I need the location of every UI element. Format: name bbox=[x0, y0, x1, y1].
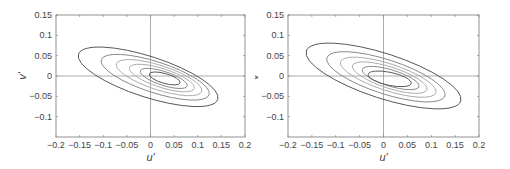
y-tick-label: 0.05 bbox=[266, 51, 284, 61]
x-tick-label: −0.2 bbox=[47, 140, 65, 150]
y-axis-label: v' bbox=[16, 71, 28, 80]
x-tick-label: 0 bbox=[148, 140, 153, 150]
x-tick-label: −0.15 bbox=[300, 140, 323, 150]
x-tick-label: 0.15 bbox=[446, 140, 464, 150]
contour-line bbox=[322, 41, 451, 112]
y-tick-label: −0.05 bbox=[29, 91, 52, 101]
x-tick-label: 0 bbox=[381, 140, 386, 150]
y-tick-label: 0 bbox=[279, 71, 284, 81]
x-tick-label: 0.1 bbox=[191, 140, 204, 150]
y-tick-label: 0.05 bbox=[34, 51, 52, 61]
x-tick-label: −0.15 bbox=[68, 140, 91, 150]
contour-line bbox=[113, 52, 206, 103]
y-tick-label: 0 bbox=[47, 71, 52, 81]
y-tick-label: 0.1 bbox=[39, 30, 52, 40]
contour-plot-right: −0.2−0.15−0.1−0.0500.050.10.150.20.150.1… bbox=[255, 0, 510, 169]
contour-plot-left: −0.2−0.15−0.1−0.0500.050.10.150.20.150.1… bbox=[0, 0, 255, 169]
x-tick-label: −0.1 bbox=[94, 140, 112, 150]
y-axis-label: v' bbox=[255, 71, 260, 80]
x-axis-label: u' bbox=[146, 151, 155, 163]
y-tick-label: 0.15 bbox=[266, 10, 284, 20]
y-tick-label: 0.1 bbox=[271, 30, 284, 40]
x-tick-label: −0.2 bbox=[279, 140, 297, 150]
y-tick-label: −0.1 bbox=[266, 112, 284, 122]
x-tick-label: 0.2 bbox=[239, 140, 252, 150]
x-tick-label: −0.05 bbox=[348, 140, 371, 150]
x-tick-label: −0.1 bbox=[327, 140, 345, 150]
contour-group bbox=[72, 35, 224, 119]
y-tick-label: −0.1 bbox=[34, 112, 52, 122]
contour-line bbox=[72, 35, 224, 119]
y-tick-label: −0.05 bbox=[261, 91, 284, 101]
x-tick-label: 0.2 bbox=[473, 140, 486, 150]
x-tick-label: 0.15 bbox=[213, 140, 231, 150]
contour-line bbox=[336, 49, 440, 106]
x-tick-label: 0.1 bbox=[425, 140, 438, 150]
x-tick-label: −0.05 bbox=[115, 140, 138, 150]
y-tick-label: 0.15 bbox=[34, 10, 52, 20]
contour-line bbox=[349, 55, 430, 99]
x-axis-label: u' bbox=[379, 151, 388, 163]
x-tick-label: 0.05 bbox=[399, 140, 417, 150]
x-tick-label: 0.05 bbox=[165, 140, 183, 150]
